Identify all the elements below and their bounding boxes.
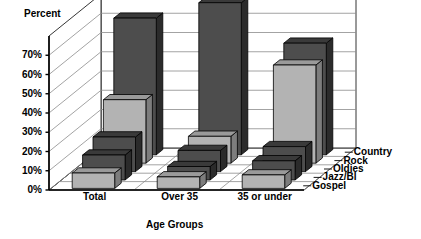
chart-container: Percent Age Groups 70%60%50%40%30%20%10%… bbox=[0, 0, 421, 239]
bar-front-face bbox=[72, 173, 115, 188]
y-tick-label: 20% bbox=[8, 146, 42, 157]
bar-front-face bbox=[157, 177, 200, 189]
bar-gospel-over-35 bbox=[157, 172, 206, 189]
x-category-label: Over 35 bbox=[135, 191, 225, 202]
y-tick-label: 10% bbox=[8, 165, 42, 176]
bar-gospel-total bbox=[72, 168, 121, 189]
bar-side-face bbox=[316, 60, 323, 163]
legend-item-gospel[interactable]: Gospel bbox=[312, 180, 346, 191]
bar-side-face bbox=[326, 38, 333, 155]
bar-chart-3d bbox=[0, 0, 421, 239]
y-tick-label: 30% bbox=[8, 126, 42, 137]
bar-top-face bbox=[157, 172, 206, 177]
bar-top-face bbox=[199, 0, 248, 3]
bar-top-face bbox=[103, 95, 152, 100]
bar-top-face bbox=[242, 170, 291, 175]
bar-top-face bbox=[273, 60, 322, 65]
bar-top-face bbox=[284, 38, 333, 43]
bar-top-face bbox=[263, 141, 312, 146]
bar-top-face bbox=[178, 145, 227, 150]
bar-top-face bbox=[114, 13, 163, 18]
bar-top-face bbox=[93, 132, 142, 137]
bar-top-face bbox=[253, 156, 302, 161]
bar-top-face bbox=[83, 150, 132, 155]
bar-side-face bbox=[156, 13, 163, 155]
x-category-label: 35 or under bbox=[220, 191, 310, 202]
bar-top-face bbox=[168, 161, 217, 166]
bar-top-face bbox=[72, 168, 121, 173]
bar-side-face bbox=[146, 95, 153, 164]
bar-side-face bbox=[241, 0, 248, 155]
x-category-label: Total bbox=[50, 191, 140, 202]
bar-top-face bbox=[188, 131, 237, 136]
y-tick-label: 0% bbox=[8, 184, 42, 195]
bar-front-face bbox=[242, 175, 285, 189]
bar-gospel-35-or-under bbox=[242, 170, 291, 189]
y-tick-label: 50% bbox=[8, 88, 42, 99]
bar-side-face bbox=[136, 132, 143, 172]
y-tick-label: 70% bbox=[8, 49, 42, 60]
y-tick-label: 40% bbox=[8, 107, 42, 118]
y-tick-label: 60% bbox=[8, 69, 42, 80]
